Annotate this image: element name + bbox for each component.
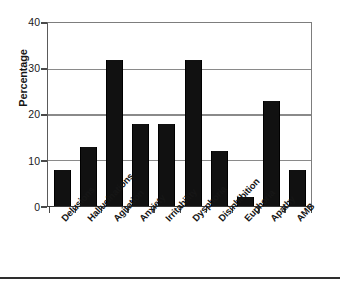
y-tick-label-40: 40 xyxy=(18,17,40,28)
plot-area xyxy=(47,22,312,207)
y-tick-label-20: 20 xyxy=(18,109,40,120)
y-axis-tick-labels: 40 30 20 10 0 xyxy=(14,0,40,288)
y-tick-label-10: 10 xyxy=(18,156,40,167)
y-tick-label-30: 30 xyxy=(18,63,40,74)
bar-dysphoria xyxy=(185,60,202,206)
y-tick-label-0: 0 xyxy=(18,202,40,213)
x-tick-mark-0 xyxy=(49,207,51,213)
chart-figure: Percentage 40 30 20 10 0 DelusionsHalluc… xyxy=(0,0,340,288)
bar-delusions xyxy=(54,170,71,206)
footer-rule xyxy=(0,277,340,279)
gridline-30 xyxy=(48,69,311,71)
